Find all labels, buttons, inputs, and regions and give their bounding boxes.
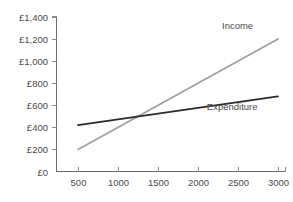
- x-axis-group: 50010001500200025003000: [57, 167, 290, 189]
- x-tick-label: 1500: [148, 177, 169, 188]
- series-line-income: [78, 39, 278, 149]
- x-tick-label: 2000: [188, 177, 209, 188]
- y-axis-ticks: [52, 17, 57, 150]
- y-tick-label: £1,200: [19, 34, 48, 45]
- y-tick-label: £1,400: [19, 12, 48, 23]
- x-axis-ticks: [79, 167, 286, 172]
- y-axis-tick-labels: £0£200£400£600£800£1,000£1,200£1,400: [19, 12, 48, 178]
- y-tick-label: £800: [27, 78, 48, 89]
- x-tick-label: 2500: [228, 177, 249, 188]
- x-tick-label: 500: [71, 177, 87, 188]
- y-tick-label: £200: [27, 144, 48, 155]
- x-tick-label: 3000: [268, 177, 289, 188]
- line-chart: £0£200£400£600£800£1,000£1,200£1,400 500…: [0, 0, 293, 202]
- chart-plot-area: £0£200£400£600£800£1,000£1,200£1,400 500…: [0, 0, 293, 202]
- x-axis-tick-labels: 50010001500200025003000: [71, 177, 290, 188]
- y-tick-label: £1,000: [19, 56, 48, 67]
- y-axis-group: £0£200£400£600£800£1,000£1,200£1,400: [19, 12, 57, 178]
- series-label-group: IncomeExpenditure: [207, 20, 258, 112]
- x-tick-label: 1000: [108, 177, 129, 188]
- y-tick-label: £600: [27, 100, 48, 111]
- series-label-income: Income: [222, 20, 253, 31]
- y-tick-label: £400: [27, 122, 48, 133]
- y-tick-label: £0: [37, 167, 48, 178]
- series-label-expenditure: Expenditure: [207, 101, 258, 112]
- data-series-group: [78, 39, 278, 149]
